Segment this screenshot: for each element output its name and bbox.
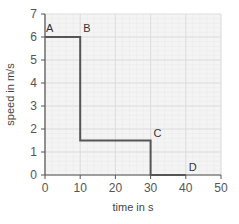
y-axis-label: speed in m/s <box>4 63 16 126</box>
x-tick-label: 20 <box>109 181 123 195</box>
x-tick-label: 30 <box>144 181 158 195</box>
plot-area <box>45 14 221 175</box>
x-axis-label: time in s <box>113 201 154 213</box>
y-tick-label: 7 <box>30 7 37 21</box>
x-tick-label: 0 <box>42 181 49 195</box>
y-tick-label: 6 <box>30 30 37 44</box>
point-label-a: A <box>46 22 54 34</box>
point-label-b: B <box>83 22 90 34</box>
point-label-c: C <box>154 127 162 139</box>
x-tick-label: 40 <box>179 181 193 195</box>
x-tick-label: 10 <box>74 181 88 195</box>
y-tick-label: 4 <box>30 76 37 90</box>
y-tick-label: 1 <box>30 145 37 159</box>
x-tick-label: 50 <box>214 181 228 195</box>
y-tick-label: 0 <box>30 168 37 182</box>
point-label-d: D <box>189 161 197 173</box>
y-tick-label: 5 <box>30 53 37 67</box>
y-tick-label: 2 <box>30 122 37 136</box>
y-tick-label: 3 <box>30 99 37 113</box>
speed-time-graph: 0102030405001234567time in sspeed in m/s… <box>0 0 239 224</box>
